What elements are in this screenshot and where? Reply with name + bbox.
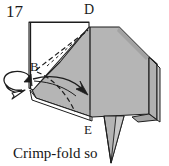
triangular-flap-icon xyxy=(104,116,124,163)
point-label-e: E xyxy=(84,123,92,136)
rotation-arrow-head xyxy=(12,90,25,99)
rotation-arrow-head-upper xyxy=(24,74,32,86)
point-label-b: B xyxy=(30,60,39,73)
right-outer-layer xyxy=(149,57,157,120)
origami-diagram xyxy=(0,0,169,166)
point-label-d: D xyxy=(84,3,94,17)
origami-step-figure: 17 D B E Crimp-fold so xyxy=(0,0,169,166)
step-number-label: 17 xyxy=(6,3,23,20)
figure-caption: Crimp-fold so xyxy=(13,145,98,162)
rotation-arrow-icon xyxy=(4,71,32,99)
